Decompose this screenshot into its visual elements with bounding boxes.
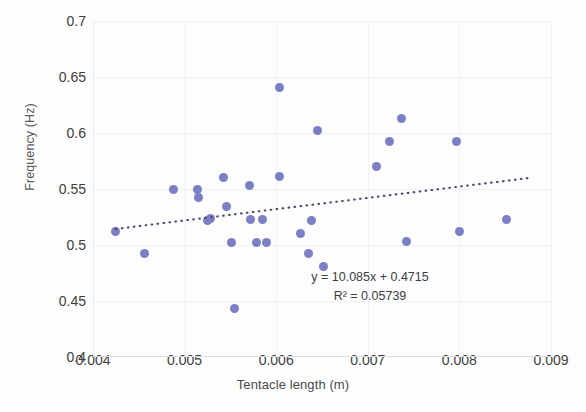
gridline-vertical: [551, 21, 552, 357]
y-axis-tick-labels: 0.40.450.50.550.60.650.7: [34, 0, 86, 412]
trendline-r-squared: R² = 0.05739: [260, 287, 480, 306]
trendline-equation: y = 10.085x + 0.4715: [260, 268, 480, 287]
y-tick-label: 0.7: [40, 13, 86, 29]
scatter-chart: Frequency (Hz) Tentacle length (m) 0.40.…: [0, 0, 586, 412]
x-axis-title: Tentacle length (m): [0, 377, 586, 392]
y-tick-label: 0.5: [40, 237, 86, 253]
y-tick-label: 0.55: [40, 181, 86, 197]
trendline-annotation: y = 10.085x + 0.4715 R² = 0.05739: [260, 268, 480, 307]
y-tick-label: 0.45: [40, 293, 86, 309]
y-tick-label: 0.6: [40, 125, 86, 141]
y-tick-label: 0.65: [40, 69, 86, 85]
